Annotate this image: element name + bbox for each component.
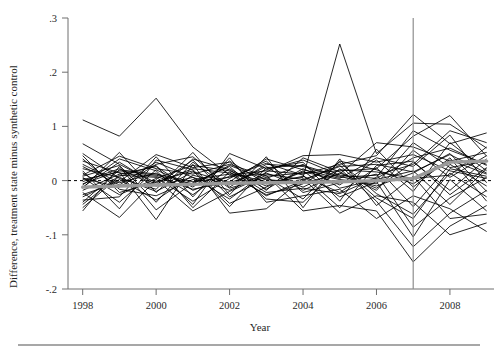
x-tick-label: 2002 xyxy=(219,300,240,311)
x-axis-ticks: 199820002002200420062008 xyxy=(72,289,460,311)
y-tick-label: .3 xyxy=(49,13,57,24)
series-lines-group xyxy=(83,44,487,262)
y-tick-label: -.2 xyxy=(46,284,57,295)
y-tick-label: 0 xyxy=(52,176,57,187)
y-axis-ticks: .3.210-.1-.2 xyxy=(46,13,68,295)
chart-figure: Difference, treatment state minus synthe… xyxy=(0,0,498,351)
x-tick-label: 1998 xyxy=(72,300,93,311)
x-axis-title: Year xyxy=(250,321,271,333)
series-line xyxy=(83,44,487,183)
difference-vs-year-line-chart: Difference, treatment state minus synthe… xyxy=(0,0,498,351)
x-tick-label: 2008 xyxy=(439,300,460,311)
x-tick-label: 2006 xyxy=(366,300,387,311)
y-tick-label: -.1 xyxy=(46,230,57,241)
x-tick-label: 2000 xyxy=(146,300,167,311)
y-tick-label: .2 xyxy=(49,67,57,78)
y-axis-title: Difference, treatment state minus synthe… xyxy=(7,65,19,288)
x-tick-label: 2004 xyxy=(293,300,315,311)
y-tick-label: 1 xyxy=(52,121,57,132)
